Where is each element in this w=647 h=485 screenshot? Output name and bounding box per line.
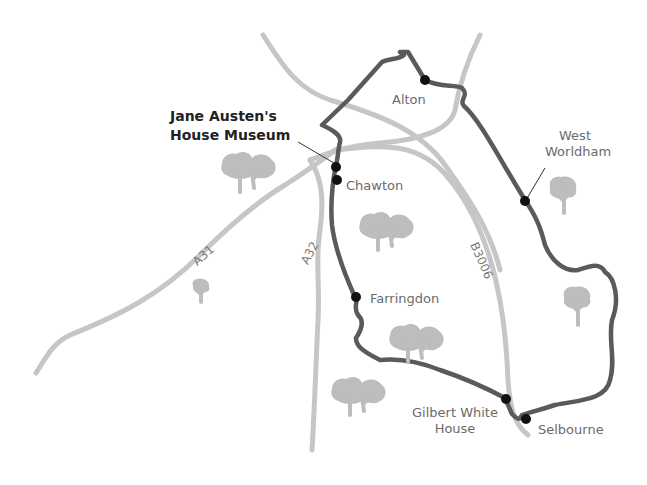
place-label-alton: Alton bbox=[392, 92, 426, 108]
stop-museum bbox=[331, 162, 341, 172]
tree-icon bbox=[550, 176, 577, 213]
tree-icon-pair bbox=[359, 212, 413, 250]
tree-icon-small bbox=[193, 279, 210, 302]
place-label-selbourne: Selbourne bbox=[538, 422, 604, 438]
stop-farringdon bbox=[351, 292, 361, 302]
place-label-west-worldham: West Worldham bbox=[545, 128, 605, 160]
tree-icon-pair bbox=[331, 377, 385, 415]
map-canvas bbox=[0, 0, 647, 485]
museum-title-label: Jane Austen's House Museum bbox=[170, 107, 290, 145]
tree-icon-pair bbox=[221, 152, 275, 192]
place-label-farringdon: Farringdon bbox=[370, 291, 439, 307]
gilbert-white-line2: House bbox=[410, 421, 500, 437]
road-a31 bbox=[36, 150, 335, 373]
stop-chawton bbox=[332, 175, 342, 185]
west-worldham-leader-line bbox=[526, 168, 545, 200]
place-label-chawton: Chawton bbox=[346, 178, 403, 194]
tree-icon-pair bbox=[389, 324, 443, 362]
tree-icon bbox=[564, 286, 591, 325]
stop-west-worldham bbox=[520, 196, 530, 206]
gilbert-white-line1: Gilbert White bbox=[410, 405, 500, 421]
stop-gilbert-white-house bbox=[501, 394, 511, 404]
stop-selbourne bbox=[521, 414, 531, 424]
museum-title-line1: Jane Austen's bbox=[170, 107, 290, 126]
museum-title-line2: House Museum bbox=[170, 126, 290, 145]
road-a32 bbox=[310, 160, 322, 450]
west-worldham-line1: West bbox=[545, 128, 605, 144]
place-label-gilbert-white-house: Gilbert White House bbox=[410, 405, 500, 437]
stop-alton bbox=[420, 75, 430, 85]
west-worldham-line2: Worldham bbox=[545, 144, 605, 160]
